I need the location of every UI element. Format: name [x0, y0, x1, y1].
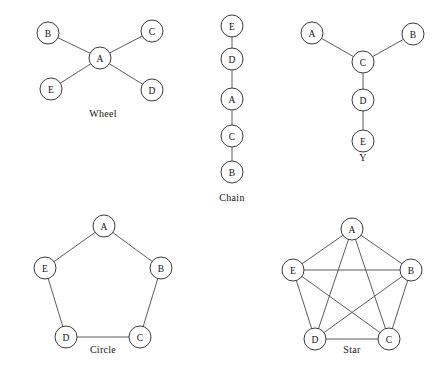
node-circle-y-C	[352, 51, 374, 73]
node-y-C: C	[352, 51, 374, 73]
node-wheel-C: C	[141, 20, 163, 42]
diagram-caption-star: Star	[343, 344, 361, 355]
node-circle-star-A	[341, 218, 363, 240]
node-chain-C: C	[221, 125, 243, 147]
node-circle-star-C	[378, 328, 400, 350]
node-star-E: E	[282, 259, 304, 281]
node-circle-wheel-A	[89, 47, 111, 69]
edge-star-EA	[302, 235, 343, 263]
edge-y-AC	[322, 38, 354, 56]
node-wheel-E: E	[40, 78, 62, 100]
node-circle-circle-E	[34, 257, 56, 279]
node-wheel-A: A	[89, 47, 111, 69]
edge-star-CE	[302, 276, 380, 332]
node-circle-star-B	[400, 259, 422, 281]
edge-circle-AB	[113, 233, 152, 262]
edge-star-AB	[361, 235, 402, 263]
node-circle-wheel-B	[37, 22, 59, 44]
node-chain-B: B	[221, 161, 243, 183]
node-circle-circle-D	[55, 326, 77, 348]
node-star-C: C	[378, 328, 400, 350]
node-circle-chain-D	[221, 48, 243, 70]
node-circle-y-A	[301, 22, 323, 44]
edge-y-BC	[373, 39, 404, 56]
edge-wheel-AC	[110, 36, 142, 53]
edge-star-DE	[296, 280, 311, 328]
node-y-A: A	[301, 22, 323, 44]
node-circle-B: B	[150, 257, 172, 279]
diagram-wheel: BCAEDWheel	[37, 20, 163, 119]
network-diagram-canvas: BCAEDWheelEDACBChainABCDEYABCDECircleABC…	[0, 0, 445, 373]
node-circle-y-E	[352, 130, 374, 152]
node-circle-circle-B	[150, 257, 172, 279]
node-y-D: D	[352, 89, 374, 111]
diagram-star: ABCDEStar	[282, 218, 422, 355]
diagram-caption-chain: Chain	[219, 192, 244, 203]
node-star-D: D	[304, 328, 326, 350]
edge-wheel-AD	[109, 64, 142, 84]
node-star-B: B	[400, 259, 422, 281]
node-y-E: E	[352, 130, 374, 152]
node-circle-wheel-C	[141, 20, 163, 42]
edge-wheel-AE	[60, 64, 90, 83]
node-circle-chain-E	[221, 15, 243, 37]
edge-star-AC	[356, 239, 386, 328]
edge-group-star	[296, 235, 407, 339]
node-circle-y-D	[352, 89, 374, 111]
node-circle-star-E	[282, 259, 304, 281]
node-chain-E: E	[221, 15, 243, 37]
node-circle-E: E	[34, 257, 56, 279]
diagram-y: ABCDEY	[301, 22, 424, 163]
node-chain-A: A	[221, 88, 243, 110]
node-circle-wheel-E	[40, 78, 62, 100]
node-circle-y-B	[402, 23, 424, 45]
node-circle-D: D	[55, 326, 77, 348]
edge-group-circle	[48, 232, 158, 337]
edge-circle-DE	[48, 279, 63, 327]
node-wheel-B: B	[37, 22, 59, 44]
network-diagram-figure: BCAEDWheelEDACBChainABCDEYABCDECircleABC…	[0, 0, 445, 373]
node-circle-chain-A	[221, 88, 243, 110]
diagram-chain: EDACBChain	[219, 15, 244, 203]
node-circle-C: C	[129, 326, 151, 348]
diagram-caption-wheel: Wheel	[89, 108, 117, 119]
node-circle-A: A	[93, 215, 115, 237]
node-chain-D: D	[221, 48, 243, 70]
node-circle-wheel-D	[141, 79, 163, 101]
diagram-circle: ABCDECircle	[34, 215, 172, 355]
edge-circle-BC	[143, 279, 158, 327]
node-y-B: B	[402, 23, 424, 45]
edge-circle-EA	[54, 232, 95, 261]
node-star-A: A	[341, 218, 363, 240]
diagram-caption-y: Y	[359, 152, 367, 163]
diagram-caption-circle: Circle	[90, 344, 116, 355]
node-circle-star-D	[304, 328, 326, 350]
node-circle-circle-A	[93, 215, 115, 237]
node-circle-chain-C	[221, 125, 243, 147]
node-circle-circle-C	[129, 326, 151, 348]
node-wheel-D: D	[141, 79, 163, 101]
edge-wheel-AB	[58, 38, 90, 53]
edge-star-AD	[319, 239, 349, 328]
edge-star-BC	[392, 280, 407, 328]
node-circle-chain-B	[221, 161, 243, 183]
edge-star-BD	[324, 276, 402, 332]
